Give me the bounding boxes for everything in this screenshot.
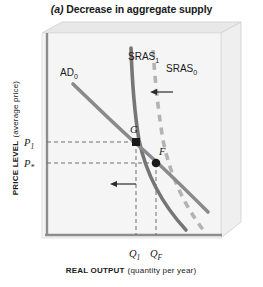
y-tick-pstar: P* — [23, 158, 34, 172]
box-right-panel — [221, 22, 241, 238]
point-marker-g — [132, 138, 140, 146]
chart-svg: AD0 SRAS1 SRAS0 G F P1 P* Q1 QF REAL OUT… — [0, 0, 263, 287]
box-top-panel — [42, 22, 241, 33]
point-marker-f — [152, 159, 161, 168]
x-axis-title: REAL OUTPUT(quantity per year) — [66, 266, 197, 275]
point-label-g: G — [130, 124, 138, 135]
y-tick-p1: P1 — [23, 137, 34, 151]
y-axis-title: PRICE LEVEL(average price) — [11, 81, 20, 196]
x-tick-q1: Q1 — [129, 248, 140, 262]
point-label-f: F — [158, 146, 166, 157]
x-tick-qf: QF — [150, 248, 163, 262]
figure-container: (a) Decrease in aggregate supply — [0, 0, 263, 287]
